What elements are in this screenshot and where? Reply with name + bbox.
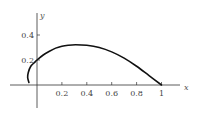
x-tick-label: 0.8 bbox=[130, 89, 143, 98]
x-tick-label: 0.2 bbox=[56, 89, 69, 98]
x-tick-label: 1 bbox=[159, 89, 164, 98]
axis-ticks bbox=[37, 35, 162, 85]
tick-labels: 0.20.40.60.810.20.4 bbox=[21, 31, 164, 98]
x-tick-label: 0.4 bbox=[80, 89, 93, 98]
chart-canvas: 0.20.40.60.810.20.4 x y bbox=[0, 0, 197, 114]
y-axis-label: y bbox=[39, 11, 45, 20]
x-tick-label: 0.6 bbox=[105, 89, 118, 98]
x-axis-label: x bbox=[184, 83, 189, 92]
y-tick-label: 0.4 bbox=[21, 31, 34, 40]
curve-line bbox=[28, 45, 162, 85]
